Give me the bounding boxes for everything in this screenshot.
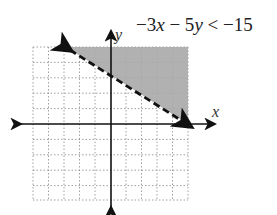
y-axis-label: y — [113, 26, 123, 44]
coordinate-plane: x y — [0, 0, 277, 215]
x-axis-label: x — [211, 103, 219, 120]
